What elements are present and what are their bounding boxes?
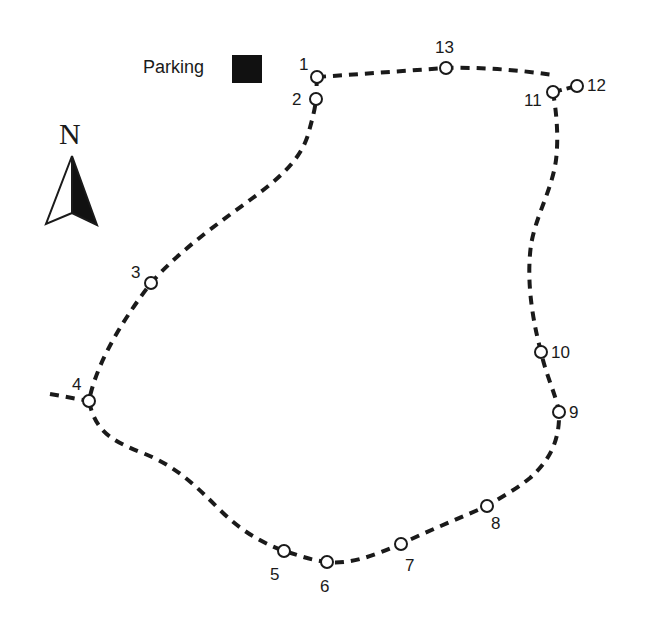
parking-icon bbox=[232, 55, 262, 83]
waypoint-label-8: 8 bbox=[491, 515, 500, 532]
waypoint-9 bbox=[553, 406, 565, 418]
waypoint-label-7: 7 bbox=[405, 557, 414, 574]
parking-label: Parking bbox=[143, 58, 204, 76]
waypoint-4 bbox=[83, 395, 95, 407]
waypoint-7 bbox=[395, 538, 407, 550]
trail-loop bbox=[89, 68, 559, 563]
waypoint-1 bbox=[311, 71, 323, 83]
waypoint-3 bbox=[145, 277, 157, 289]
north-arrow-icon bbox=[46, 156, 97, 225]
waypoint-label-4: 4 bbox=[72, 376, 81, 393]
waypoint-label-3: 3 bbox=[131, 264, 140, 281]
waypoint-label-12: 12 bbox=[587, 77, 606, 94]
waypoint-label-5: 5 bbox=[270, 566, 279, 583]
waypoint-label-2: 2 bbox=[292, 91, 301, 108]
north-label: N bbox=[59, 119, 81, 149]
waypoint-13 bbox=[440, 62, 452, 74]
waypoint-8 bbox=[481, 500, 493, 512]
waypoint-6 bbox=[321, 556, 333, 568]
waypoint-label-11: 11 bbox=[524, 92, 542, 109]
waypoint-label-6: 6 bbox=[320, 578, 329, 595]
waypoint-label-1: 1 bbox=[299, 56, 308, 73]
waypoint-11 bbox=[547, 86, 559, 98]
waypoint-label-10: 10 bbox=[551, 344, 570, 361]
waypoint-2 bbox=[310, 93, 322, 105]
waypoint-10 bbox=[535, 346, 547, 358]
waypoint-12 bbox=[571, 80, 583, 92]
waypoint-label-9: 9 bbox=[569, 404, 578, 421]
waypoint-label-13: 13 bbox=[435, 39, 454, 56]
waypoint-5 bbox=[278, 545, 290, 557]
trail-map bbox=[0, 0, 646, 626]
